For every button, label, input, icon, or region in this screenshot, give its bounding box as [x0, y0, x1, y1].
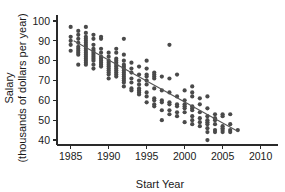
- data-point: [91, 59, 95, 63]
- data-point: [190, 90, 194, 94]
- data-point: [76, 53, 80, 57]
- data-point: [145, 67, 149, 71]
- data-point: [145, 82, 149, 86]
- data-point: [129, 67, 133, 71]
- data-point: [198, 102, 202, 106]
- data-point: [228, 112, 232, 116]
- data-point: [84, 63, 88, 67]
- data-point: [190, 122, 194, 126]
- regression-line: [74, 41, 239, 132]
- y-axis-tick-labels: 405060708090100: [32, 15, 50, 146]
- y-axis-ticks: [53, 21, 57, 140]
- x-tick-label-2010: 2010: [249, 150, 273, 162]
- data-point: [198, 120, 202, 124]
- scatter-chart: 405060708090100 198519901995200020052010…: [0, 0, 285, 192]
- data-points: [69, 25, 240, 142]
- data-point: [167, 76, 171, 80]
- data-point: [213, 122, 217, 126]
- data-point: [99, 65, 103, 69]
- data-point: [198, 116, 202, 120]
- data-point: [205, 106, 209, 110]
- data-point: [190, 108, 194, 112]
- data-point: [69, 25, 73, 29]
- data-point: [91, 63, 95, 67]
- data-point: [228, 130, 232, 134]
- data-point: [114, 47, 118, 51]
- data-point: [129, 61, 133, 65]
- data-point: [183, 120, 187, 124]
- data-point: [122, 80, 126, 84]
- data-point: [160, 108, 164, 112]
- data-point: [145, 94, 149, 98]
- y-axis-group: 405060708090100: [32, 15, 57, 146]
- x-axis-tick-labels: 198519901995200020052010: [59, 150, 272, 162]
- x-tick-label-2005: 2005: [211, 150, 235, 162]
- y-tick-label-50: 50: [38, 114, 50, 126]
- data-point: [175, 104, 179, 108]
- y-axis-title-line2: (thousands of dollars per year): [16, 13, 28, 162]
- data-point: [160, 74, 164, 78]
- data-point: [205, 122, 209, 126]
- data-point: [175, 114, 179, 118]
- data-point: [183, 110, 187, 114]
- data-point: [114, 74, 118, 78]
- data-point: [221, 114, 225, 118]
- data-point: [167, 102, 171, 106]
- data-point: [145, 74, 149, 78]
- y-tick-label-60: 60: [38, 94, 50, 106]
- data-point: [122, 84, 126, 88]
- data-point: [167, 108, 171, 112]
- data-point: [107, 51, 111, 55]
- data-point: [213, 130, 217, 134]
- data-point: [84, 31, 88, 35]
- data-point: [137, 78, 141, 82]
- y-axis-title-line1: Salary: [3, 72, 15, 104]
- data-point: [107, 76, 111, 80]
- data-point: [137, 82, 141, 86]
- data-point: [76, 63, 80, 67]
- data-point: [122, 37, 126, 41]
- data-point: [137, 92, 141, 96]
- data-point: [99, 47, 103, 51]
- data-point: [129, 76, 133, 80]
- data-point: [183, 88, 187, 92]
- data-point: [190, 118, 194, 122]
- data-point: [190, 94, 194, 98]
- x-axis-title: Start Year: [136, 178, 185, 190]
- data-point: [190, 114, 194, 118]
- y-tick-label-40: 40: [38, 134, 50, 146]
- x-axis-group: 198519901995200020052010: [57, 145, 278, 162]
- data-point: [205, 138, 209, 142]
- data-point: [99, 51, 103, 55]
- x-tick-label-1995: 1995: [135, 150, 159, 162]
- data-point: [152, 104, 156, 108]
- data-point: [107, 55, 111, 59]
- data-point: [198, 124, 202, 128]
- data-point: [69, 49, 73, 53]
- x-tick-label-1990: 1990: [97, 150, 121, 162]
- y-tick-label-70: 70: [38, 74, 50, 86]
- y-tick-label-90: 90: [38, 35, 50, 47]
- data-point: [213, 112, 217, 116]
- data-point: [152, 86, 156, 90]
- data-point: [167, 112, 171, 116]
- data-point: [91, 67, 95, 71]
- data-point: [145, 59, 149, 63]
- data-point: [69, 39, 73, 43]
- data-point: [183, 106, 187, 110]
- data-point: [160, 118, 164, 122]
- data-point: [137, 65, 141, 69]
- data-point: [99, 37, 103, 41]
- data-point: [152, 98, 156, 102]
- data-point: [122, 53, 126, 57]
- data-point: [107, 72, 111, 76]
- data-point: [129, 88, 133, 92]
- x-tick-label-1985: 1985: [59, 150, 83, 162]
- data-point: [145, 100, 149, 104]
- x-axis-ticks: [71, 145, 261, 149]
- data-point: [114, 51, 118, 55]
- data-point: [228, 122, 232, 126]
- data-point: [198, 96, 202, 100]
- data-point: [69, 35, 73, 39]
- data-point: [76, 29, 80, 33]
